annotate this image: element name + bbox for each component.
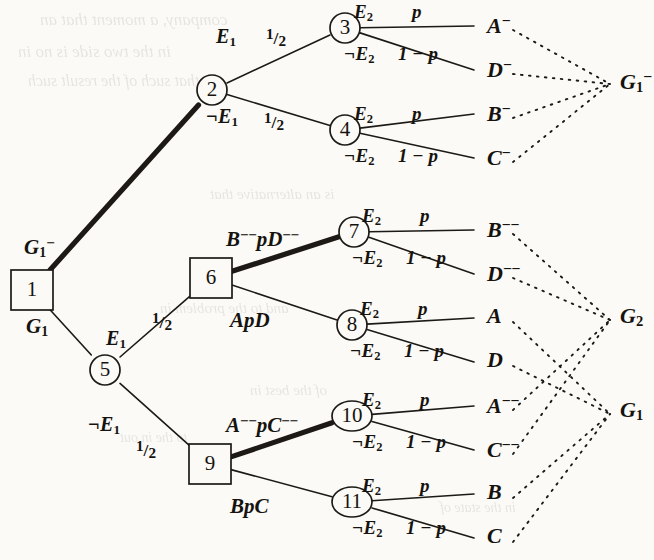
- edge-label-n4-down-prob: 1 − p: [398, 146, 438, 165]
- edge-label-n3-up-prob: p: [412, 2, 422, 21]
- edge-label-n8-up-prob: p: [418, 299, 428, 318]
- tree-edges-svg: [0, 0, 654, 560]
- edge-label-n5-down-prob: 1/2: [136, 438, 156, 460]
- edge-label-n3-down-event: ¬E2: [344, 44, 375, 65]
- edge-5-to-9: [120, 383, 189, 445]
- edge-label-n3-up-event: E2: [354, 2, 373, 23]
- leaf-outcome-L1: A−: [487, 13, 510, 37]
- edge-label-n11-up-event: E2: [362, 476, 381, 497]
- node-label-2: 2: [182, 79, 242, 100]
- group-link-L11-to-G1: [513, 414, 610, 498]
- leaf-outcome-L6: D−−: [487, 261, 520, 285]
- edge-label-n9-down-action: BpC: [230, 496, 269, 517]
- edge-9-to-11: [231, 470, 332, 497]
- leaf-outcome-L2: D−: [487, 57, 512, 81]
- leaf-outcome-L8: D: [487, 349, 503, 371]
- edge-label-n8-down-event: ¬E2: [350, 341, 381, 362]
- edge-1-to-5: [50, 310, 91, 355]
- edge-label-n9-up-action: A−−pC−−: [226, 414, 298, 436]
- edge-label-n11-down-event: ¬E2: [352, 518, 383, 539]
- group-label-G1: G1: [620, 399, 643, 423]
- edge-label-n2-down-prob: 1/2: [264, 110, 284, 132]
- group-link-L7-to-G1: [513, 322, 610, 414]
- node-label-1: 1: [2, 279, 62, 300]
- edge-label-n6-down-action: ApD: [230, 310, 270, 331]
- edge-label-n10-down-event: ¬E2: [352, 432, 383, 453]
- edge-label-root-down: G1: [26, 316, 48, 339]
- leaf-outcome-L4: C−: [487, 145, 510, 169]
- edge-label-n2-up-event: E1: [216, 26, 236, 48]
- edge-label-n10-up-prob: p: [420, 390, 430, 409]
- edge-label-n7-down-prob: 1 − p: [406, 248, 446, 267]
- node-label-5: 5: [75, 359, 135, 380]
- edge-label-n4-up-event: E2: [354, 104, 373, 125]
- leaf-outcome-L11: B: [487, 481, 502, 503]
- edge-7-to-L5: [369, 230, 474, 232]
- edge-label-n5-up-event: E1: [106, 328, 126, 350]
- decision-tree-figure: company, a moment that anin the two side…: [0, 0, 654, 560]
- edge-label-n2-up-prob: 1/2: [266, 26, 286, 48]
- edge-label-n7-up-event: E2: [362, 206, 381, 227]
- leaf-outcome-L10: C−−: [487, 437, 519, 461]
- group-link-L5-to-G2: [513, 234, 610, 320]
- edge-label-n5-down-event: ¬E1: [88, 414, 120, 436]
- leaf-outcome-L3: B−: [487, 101, 510, 125]
- group-label-G2: G2: [620, 305, 643, 329]
- edge-1-to-2: [50, 105, 199, 270]
- group-link-L1-to-G1minus: [513, 30, 610, 84]
- edge-label-n6-up-action: B−−pD−−: [226, 228, 299, 250]
- group-link-L3-to-G1minus: [513, 84, 610, 118]
- node-label-6: 6: [181, 267, 241, 288]
- node-label-9: 9: [180, 453, 240, 474]
- edge-label-n7-down-event: ¬E2: [352, 248, 383, 269]
- edge-label-n11-up-prob: p: [420, 476, 430, 495]
- edge-label-n2-down-event: ¬E1: [206, 106, 238, 128]
- group-link-L4-to-G1minus: [513, 84, 610, 162]
- edge-label-n7-up-prob: p: [420, 206, 430, 225]
- edge-label-n10-up-event: E2: [362, 390, 381, 411]
- group-link-L9-to-G2: [513, 320, 610, 410]
- edge-label-n4-down-event: ¬E2: [344, 146, 375, 167]
- edge-label-n4-up-prob: p: [412, 104, 422, 123]
- leaf-outcome-L5: B−−: [487, 217, 519, 241]
- edge-label-n8-down-prob: 1 − p: [404, 341, 444, 360]
- edge-3-to-L1: [360, 26, 474, 28]
- group-link-L2-to-G1minus: [513, 74, 610, 84]
- edge-label-n10-down-prob: 1 − p: [406, 432, 446, 451]
- leaf-outcome-L12: C: [487, 525, 502, 547]
- leaf-outcome-L7: A: [487, 305, 502, 327]
- edge-label-n5-up-prob: 1/2: [152, 310, 172, 332]
- group-link-L6-to-G2: [513, 278, 610, 320]
- edge-label-n11-down-prob: 1 − p: [406, 518, 446, 537]
- group-link-L8-to-G1: [513, 366, 610, 414]
- edge-label-n8-up-event: E2: [360, 299, 379, 320]
- leaf-outcome-L9: A−−: [487, 393, 519, 417]
- group-label-G1minus: G1−: [620, 69, 652, 94]
- edge-label-n3-down-prob: 1 − p: [398, 44, 438, 63]
- edge-label-root-up: G1−: [24, 236, 55, 260]
